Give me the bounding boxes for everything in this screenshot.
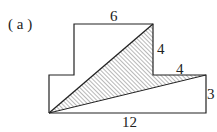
- label-bottom: 12: [122, 114, 137, 130]
- figure-label: ( a ): [8, 16, 32, 33]
- label-right-lower: 3: [207, 86, 215, 102]
- diagram: ( a ) 6 4 4 3 12: [0, 0, 217, 132]
- label-right-upper: 4: [157, 41, 165, 57]
- label-top: 6: [110, 8, 118, 24]
- label-step: 4: [176, 61, 184, 77]
